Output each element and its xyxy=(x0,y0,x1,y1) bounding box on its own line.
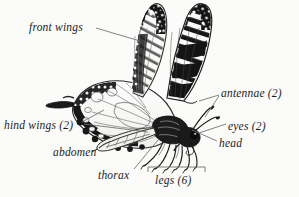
label-antennae: antennae (2) xyxy=(221,88,282,100)
label-hind-wings: hind wings (2) xyxy=(4,120,73,132)
label-thorax: thorax xyxy=(98,170,129,182)
label-abdomen: abdomen xyxy=(53,147,97,159)
butterfly-anatomy-figure: front wings hind wings (2) abdomen thora… xyxy=(0,0,299,197)
label-head: head xyxy=(219,138,242,150)
label-eyes: eyes (2) xyxy=(228,121,266,133)
eye-shape xyxy=(190,131,197,138)
label-legs: legs (6) xyxy=(155,175,191,187)
label-front-wings: front wings xyxy=(29,22,83,34)
